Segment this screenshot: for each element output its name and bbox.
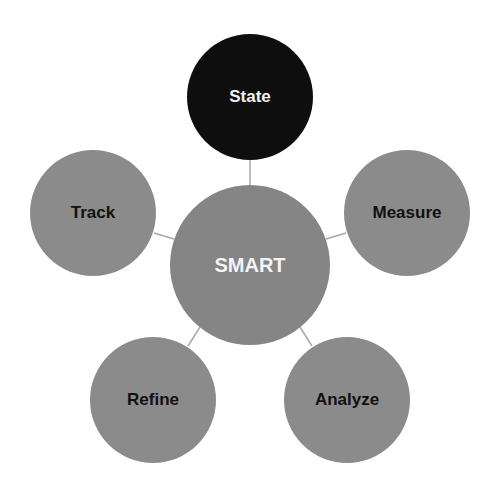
connector-measure (326, 233, 346, 239)
node-refine: Refine (90, 337, 216, 463)
node-track-label: Track (71, 203, 115, 223)
center-node-smart: SMART (170, 185, 330, 345)
node-state-label: State (229, 87, 271, 107)
connector-analyze (300, 327, 312, 346)
connector-refine (188, 327, 200, 346)
node-track: Track (30, 150, 156, 276)
node-analyze: Analyze (284, 337, 410, 463)
node-measure-label: Measure (373, 203, 442, 223)
node-measure: Measure (344, 150, 470, 276)
node-refine-label: Refine (127, 390, 179, 410)
node-state: State (187, 34, 313, 160)
center-node-label: SMART (214, 254, 285, 277)
connector-track (154, 233, 174, 239)
node-analyze-label: Analyze (315, 390, 379, 410)
